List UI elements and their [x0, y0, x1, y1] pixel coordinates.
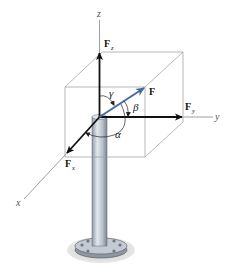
svg-text:F: F [185, 101, 191, 112]
z-axis-label: z [96, 8, 101, 19]
y-axis-label: y [214, 111, 220, 122]
svg-text:z: z [110, 44, 114, 51]
fx-label: F x [65, 158, 75, 171]
svg-text:y: y [191, 107, 195, 114]
x-axis-label: x [15, 197, 21, 208]
alpha-label: α [115, 128, 121, 140]
svg-text:F: F [65, 158, 71, 169]
fy-label: F y [185, 101, 195, 114]
vertical-post [92, 115, 107, 247]
force-f-label: F [149, 86, 155, 97]
beta-label: β [132, 101, 139, 113]
svg-text:x: x [71, 164, 75, 171]
force-components-diagram: z y x F F z F y F x γ β α [0, 0, 231, 274]
x-axis-line [24, 154, 66, 199]
component-vectors [67, 53, 182, 153]
fz-label: F z [104, 38, 114, 51]
component-box [65, 52, 183, 157]
gamma-label: γ [109, 87, 114, 99]
svg-text:F: F [104, 38, 110, 49]
